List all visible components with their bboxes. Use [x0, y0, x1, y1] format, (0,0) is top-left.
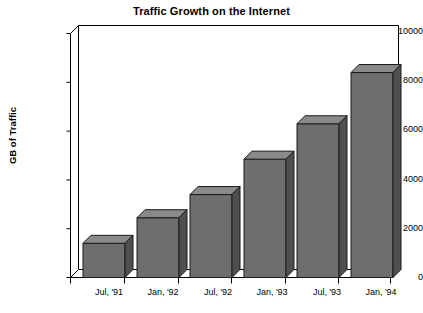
- y-axis-ticks: [67, 34, 71, 278]
- bar-0[interactable]: [83, 235, 133, 277]
- chart-container: Traffic Growth on the Internet GB of Tra…: [0, 0, 423, 313]
- left-depth-top: [71, 26, 79, 34]
- bar-2-front: [190, 195, 232, 278]
- bar-5-front: [351, 73, 393, 278]
- bar-5-side: [393, 65, 401, 278]
- bar-3[interactable]: [244, 151, 294, 277]
- bar-0-front: [83, 243, 125, 277]
- x-axis-ticks: [71, 278, 391, 284]
- bar-0-side: [125, 235, 133, 277]
- bar-4-side: [339, 116, 347, 278]
- bar-4-front: [297, 124, 339, 278]
- bar-1-side: [179, 210, 187, 278]
- bar-5[interactable]: [351, 65, 401, 278]
- bar-1-front: [137, 218, 179, 278]
- bar-2-side: [232, 187, 240, 278]
- bar-3-front: [244, 159, 286, 277]
- left-depth-bottom: [71, 270, 79, 278]
- bar-1[interactable]: [137, 210, 187, 278]
- bar-4[interactable]: [297, 116, 347, 278]
- bar-2[interactable]: [190, 187, 240, 278]
- bar-3-side: [286, 151, 294, 277]
- chart-plot-area: [0, 0, 423, 313]
